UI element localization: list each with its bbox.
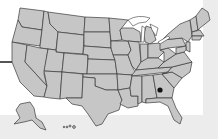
state-alaska[interactable] (14, 102, 46, 130)
state-wisconsin[interactable] (120, 28, 141, 42)
us-map (0, 0, 218, 139)
state-connecticut-ri[interactable] (192, 36, 202, 40)
state-new-mexico[interactable] (60, 72, 83, 99)
state-hawaii[interactable] (63, 125, 75, 128)
lake-superior (128, 16, 150, 26)
location-marker[interactable] (157, 87, 162, 92)
lake-michigan (141, 26, 145, 42)
state-south-dakota[interactable] (84, 32, 111, 48)
state-iowa[interactable] (111, 41, 131, 55)
state-nebraska[interactable] (83, 46, 115, 60)
state-wyoming[interactable] (56, 32, 84, 54)
state-kansas[interactable] (87, 59, 117, 74)
state-florida[interactable] (146, 98, 182, 124)
state-north-dakota[interactable] (84, 17, 110, 32)
state-colorado[interactable] (62, 53, 88, 74)
state-arizona[interactable] (44, 71, 62, 99)
contiguous-states (12, 8, 210, 126)
state-maine[interactable] (196, 8, 210, 30)
state-new-jersey[interactable] (186, 42, 190, 52)
